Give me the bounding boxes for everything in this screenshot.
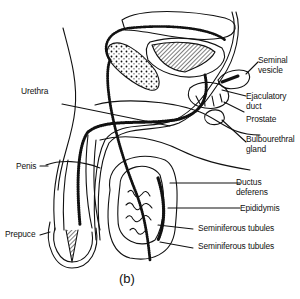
label-seminal-vesicle: Seminal vesicle [258,56,288,75]
bulbourethral-gland [205,110,225,125]
label-seminiferous-tubules-b: Seminiferous tubules [198,242,274,252]
label-prostate: Prostate [246,115,276,125]
label-ejaculatory-duct: Ejaculatory duct [246,92,286,111]
leader-prostate [224,102,244,112]
leader-bulbourethral [222,120,246,142]
label-penis: Penis [16,162,36,172]
rectum [107,43,159,90]
leader-ejaculatory-duct [222,90,246,96]
label-bulbourethral-gland: Bulbourethral gland [246,135,295,154]
leader-seminiferous-b [160,242,193,248]
label-urethra: Urethra [21,87,48,97]
label-seminiferous-tubules-a: Seminiferous tubules [198,224,274,234]
label-ductus-deferens: Ductus deferens [236,178,268,197]
anatomy-diagram: Seminal vesicle Ejaculatory duct Prostat… [0,0,300,299]
label-epididymis: Epididymis [240,204,280,214]
figure-caption: (b) [119,271,135,286]
leader-seminal-vesicle [246,62,258,74]
label-prepuce: Prepuce [5,230,36,240]
